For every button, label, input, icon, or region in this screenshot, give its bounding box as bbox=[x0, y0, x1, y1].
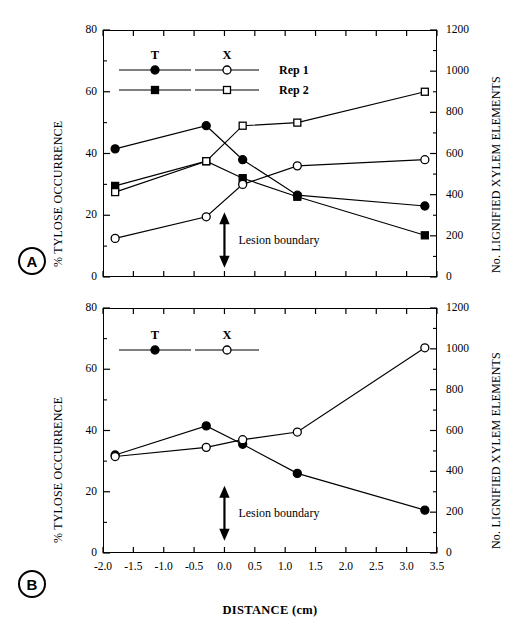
panel-b-legend-head-x: X bbox=[222, 328, 231, 343]
panel-b-y-left-tick-0: 0 bbox=[69, 547, 97, 559]
series-line-0 bbox=[115, 126, 425, 206]
data-point-filled-circle bbox=[293, 469, 301, 477]
x-tick-label-7: 1.5 bbox=[308, 561, 322, 573]
data-point-open-square bbox=[294, 119, 301, 126]
panel-b-y-right-tick-5: 1000 bbox=[446, 343, 469, 355]
panel-a: 020406080020040060080010001200Lesion bou… bbox=[0, 0, 527, 300]
data-point-open-circle bbox=[421, 344, 429, 352]
panel-b-y-left-axis-title: % TYLOSE OCCURRENCE bbox=[51, 397, 66, 543]
data-point-open-circle bbox=[111, 453, 119, 461]
x-tick-label-9: 2.5 bbox=[369, 561, 383, 573]
panel-a-lesion-boundary-label: Lesion boundary bbox=[238, 232, 319, 247]
panel-a-y-right-tick-6: 1200 bbox=[446, 24, 469, 36]
data-point-open-square bbox=[421, 88, 428, 95]
x-tick-label-0: -2.0 bbox=[94, 561, 112, 573]
panel-a-y-right-tick-0: 0 bbox=[446, 271, 452, 283]
series-line-0 bbox=[115, 426, 425, 510]
x-tick-label-3: -0.5 bbox=[185, 561, 203, 573]
panel-b-y-left-tick-3: 60 bbox=[69, 364, 97, 376]
x-tick-label-10: 3.0 bbox=[399, 561, 413, 573]
x-tick-label-8: 2.0 bbox=[339, 561, 353, 573]
panel-a-y-left-tick-3: 60 bbox=[69, 86, 97, 98]
data-point-open-circle bbox=[111, 234, 119, 242]
data-point-filled-circle bbox=[202, 122, 210, 130]
data-point-open-circle bbox=[223, 346, 231, 354]
data-point-filled-circle bbox=[151, 66, 159, 74]
panel-a-legend-head-x: X bbox=[222, 48, 231, 63]
panel-a-y-right-tick-5: 1000 bbox=[446, 65, 469, 77]
panel-b-y-right-tick-4: 800 bbox=[446, 384, 463, 396]
panel-b: -2.0-1.5-1.0-0.50.00.51.01.52.02.53.03.5… bbox=[0, 300, 527, 630]
panel-b-y-right-tick-1: 200 bbox=[446, 506, 463, 518]
x-tick-label-1: -1.5 bbox=[124, 561, 142, 573]
data-point-filled-square bbox=[294, 193, 301, 200]
figure-root: 020406080020040060080010001200Lesion bou… bbox=[0, 0, 527, 630]
panel-a-y-right-axis-title: No. LIGNIFIED XYLEM ELEMENTS bbox=[489, 76, 504, 273]
panel-b-lesion-boundary-label: Lesion boundary bbox=[238, 506, 319, 521]
data-point-filled-circle bbox=[111, 145, 119, 153]
panel-a-y-left-tick-1: 20 bbox=[69, 210, 97, 222]
panel-b-y-right-tick-2: 400 bbox=[446, 466, 463, 478]
data-point-open-circle bbox=[421, 156, 429, 164]
x-tick-label-4: 0.0 bbox=[217, 561, 231, 573]
data-point-open-circle bbox=[202, 213, 210, 221]
data-point-filled-square bbox=[152, 87, 159, 94]
data-point-open-circle bbox=[293, 162, 301, 170]
panel-b-y-left-tick-1: 20 bbox=[69, 486, 97, 498]
panel-b-y-right-tick-0: 0 bbox=[446, 547, 452, 559]
data-point-open-square bbox=[239, 122, 246, 129]
panel-b-y-left-tick-4: 80 bbox=[69, 302, 97, 314]
lesion-boundary-arrow bbox=[219, 212, 229, 268]
panel-b-y-right-axis-title: No. LIGNIFIED XYLEM ELEMENTS bbox=[489, 352, 504, 549]
lesion-boundary-arrow bbox=[219, 486, 229, 541]
x-tick-label-11: 3.5 bbox=[430, 561, 444, 573]
panel-b-legend-head-t: T bbox=[151, 328, 159, 343]
x-tick-label-5: 0.5 bbox=[248, 561, 262, 573]
data-point-filled-circle bbox=[421, 202, 429, 210]
x-axis-title: DISTANCE (cm) bbox=[223, 603, 318, 618]
panel-a-y-right-tick-4: 800 bbox=[446, 107, 463, 119]
x-tick-label-6: 1.0 bbox=[278, 561, 292, 573]
data-point-filled-square bbox=[421, 232, 428, 239]
panel-tag-a: A bbox=[18, 247, 46, 275]
series-line-1 bbox=[115, 161, 425, 235]
panel-a-legend-row-label-1: Rep 2 bbox=[279, 83, 309, 98]
panel-b-y-left-tick-2: 40 bbox=[69, 425, 97, 437]
panel-b-y-right-tick-3: 600 bbox=[446, 425, 463, 437]
data-point-open-square bbox=[224, 87, 231, 94]
x-tick-label-2: -1.0 bbox=[155, 561, 173, 573]
panel-a-y-left-tick-2: 40 bbox=[69, 148, 97, 160]
panel-a-legend-head-t: T bbox=[151, 48, 159, 63]
data-point-open-square bbox=[203, 158, 210, 165]
panel-b-y-right-tick-6: 1200 bbox=[446, 302, 469, 314]
panel-a-y-right-tick-1: 200 bbox=[446, 230, 463, 242]
data-point-open-circle bbox=[223, 66, 231, 74]
data-point-filled-circle bbox=[421, 506, 429, 514]
data-point-filled-circle bbox=[151, 346, 159, 354]
panel-a-y-right-tick-3: 600 bbox=[446, 148, 463, 160]
panel-tag-b: B bbox=[18, 570, 46, 598]
panel-a-legend-row-label-0: Rep 1 bbox=[279, 63, 309, 78]
data-point-filled-circle bbox=[202, 422, 210, 430]
data-point-open-circle bbox=[293, 428, 301, 436]
panel-a-y-left-axis-title: % TYLOSE OCCURRENCE bbox=[51, 121, 66, 267]
panel-a-y-left-tick-4: 80 bbox=[69, 24, 97, 36]
data-point-filled-circle bbox=[239, 156, 247, 164]
data-point-open-circle bbox=[239, 180, 247, 188]
series-line-2 bbox=[115, 160, 425, 239]
panel-a-y-left-tick-0: 0 bbox=[69, 271, 97, 283]
data-point-open-square bbox=[112, 189, 119, 196]
data-point-open-circle bbox=[202, 443, 210, 451]
data-point-open-circle bbox=[239, 436, 247, 444]
panel-a-y-right-tick-2: 400 bbox=[446, 189, 463, 201]
